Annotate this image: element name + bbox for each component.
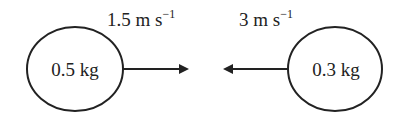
collision-diagram: 0.5 kg 1.5 m s−1 0.3 kg 3 m s−1: [0, 0, 397, 125]
right-velocity-label: 3 m s−1: [239, 7, 293, 30]
left-body: 0.5 kg 1.5 m s−1: [27, 7, 187, 111]
right-mass-label: 0.3 kg: [312, 59, 360, 80]
left-mass-label: 0.5 kg: [51, 59, 99, 80]
left-velocity-label: 1.5 m s−1: [107, 7, 175, 30]
right-body: 0.3 kg 3 m s−1: [225, 7, 382, 111]
